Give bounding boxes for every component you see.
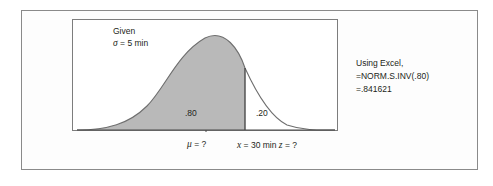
shaded-area-left	[77, 35, 245, 130]
z-symbol: z	[279, 140, 283, 150]
distribution-plot-box: Given σ = 5 min .80 .20	[72, 19, 338, 131]
excel-note-line-2: =NORM.S.INV(.80)	[356, 70, 429, 83]
x-value: = 30 min	[244, 140, 277, 150]
given-heading: Given	[113, 25, 148, 37]
area-label-right: .20	[256, 108, 268, 118]
excel-note-block: Using Excel, =NORM.S.INV(.80) =.841621	[356, 57, 429, 96]
z-value: = ?	[285, 140, 297, 150]
cut-axis-label-block: x = 30 min z = ?	[237, 139, 297, 152]
excel-note-line-3: =.841621	[356, 83, 429, 96]
given-block: Given σ = 5 min	[113, 25, 148, 49]
x-symbol: x	[237, 140, 241, 150]
excel-note-line-1: Using Excel,	[356, 57, 429, 70]
z-axis-label: z = ?	[279, 140, 297, 150]
sigma-value: = 5 min	[120, 38, 148, 48]
figure-root: Given σ = 5 min .80 .20 μ = ? x = 30 min…	[0, 0, 493, 186]
mu-symbol: μ	[187, 139, 192, 149]
sigma-symbol: σ	[113, 38, 118, 48]
mean-axis-label: μ = ?	[187, 139, 206, 149]
mu-value: = ?	[194, 139, 206, 149]
area-label-left: .80	[185, 108, 197, 118]
x-axis-label: x = 30 min	[237, 140, 276, 150]
sigma-statement: σ = 5 min	[113, 37, 148, 49]
figure-outer-frame: Given σ = 5 min .80 .20 μ = ? x = 30 min…	[21, 10, 478, 170]
